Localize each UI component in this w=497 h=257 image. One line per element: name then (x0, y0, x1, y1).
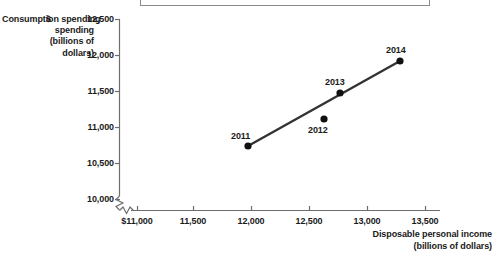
chart-figure: Consumption spending spending (billions … (0, 0, 497, 257)
data-point-label-2013: 2013 (325, 78, 345, 87)
data-point-label-2012: 2012 (308, 126, 328, 135)
data-point-2014 (396, 57, 403, 64)
data-point-label-2014: 2014 (386, 46, 406, 55)
data-point-2013 (336, 89, 343, 96)
data-point-label-2011: 2011 (231, 132, 250, 141)
plot-area (0, 0, 497, 257)
data-point-2011 (244, 142, 251, 149)
data-point-2012 (320, 115, 327, 122)
